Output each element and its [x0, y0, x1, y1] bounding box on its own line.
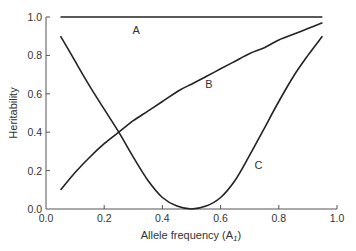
x-tick-label: 1.0	[330, 212, 345, 224]
x-tick-label: 0.8	[271, 212, 286, 224]
series-group	[61, 17, 323, 209]
x-tick-label: 0.2	[97, 212, 112, 224]
axes: 0.00.20.40.60.81.00.00.20.40.60.81.0	[27, 11, 344, 224]
curve-c	[61, 36, 323, 209]
curve-label-a: A	[133, 24, 141, 36]
curve-label-b: B	[205, 78, 212, 90]
curve-labels: ABC	[133, 24, 263, 170]
curve-label-c: C	[254, 159, 262, 171]
y-tick-label: 0.6	[27, 88, 42, 100]
curve-b	[61, 23, 323, 190]
x-axis-title: Allele frequency (A1)	[141, 229, 241, 243]
x-tick-label: 0.4	[155, 212, 170, 224]
y-tick-label: 0.0	[27, 203, 42, 215]
y-tick-label: 0.8	[27, 49, 42, 61]
y-tick-label: 0.4	[27, 126, 42, 138]
y-tick-label: 1.0	[27, 11, 42, 23]
y-tick-label: 0.2	[27, 165, 42, 177]
y-axis-title: Heritability	[7, 87, 19, 139]
heritability-chart: 0.00.20.40.60.81.00.00.20.40.60.81.0 ABC…	[0, 0, 356, 251]
x-tick-label: 0.6	[213, 212, 228, 224]
